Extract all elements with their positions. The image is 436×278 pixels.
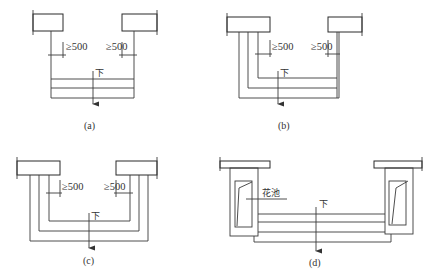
- panel-b: ≥500 ≥500 下 (b): [227, 13, 362, 132]
- direction-label: 下: [319, 199, 328, 209]
- stair-layout-diagram: ≥500 ≥500 下 (a) ≥500 ≥500: [0, 0, 436, 278]
- direction-label: 下: [95, 68, 104, 78]
- direction-label: 下: [91, 211, 100, 221]
- step-line: [254, 234, 391, 242]
- dimension-label-left: ≥500: [66, 41, 88, 52]
- caption-a: (a): [84, 120, 95, 132]
- wall-left-hatched: [220, 161, 270, 168]
- dimension-label-left: ≥500: [62, 181, 84, 192]
- wall-left-hatched: [227, 17, 270, 32]
- planter-label: 花池: [262, 187, 280, 198]
- wall-right-hatched: [374, 161, 422, 168]
- panel-c: ≥500 ≥500 下 (c): [17, 157, 157, 267]
- wall-right-hatched: [116, 161, 157, 175]
- dimension-label-right: ≥500: [104, 181, 126, 192]
- direction-label: 下: [280, 68, 289, 78]
- dimension-label-left: ≥500: [272, 41, 294, 52]
- dimension-label-right: ≥500: [311, 41, 333, 52]
- wall-left-hatched: [33, 14, 63, 31]
- caption-d: (d): [309, 257, 321, 269]
- dimension-label-right: ≥500: [106, 41, 128, 52]
- panel-d: 花池 下 (d): [220, 157, 422, 269]
- wall-right-hatched: [122, 14, 157, 31]
- planter-left: [230, 168, 258, 236]
- wall-left-hatched: [17, 161, 60, 175]
- panel-a: ≥500 ≥500 下 (a): [33, 10, 157, 132]
- caption-b: (b): [278, 120, 290, 132]
- caption-c: (c): [83, 255, 94, 267]
- wall-right-hatched: [328, 17, 362, 32]
